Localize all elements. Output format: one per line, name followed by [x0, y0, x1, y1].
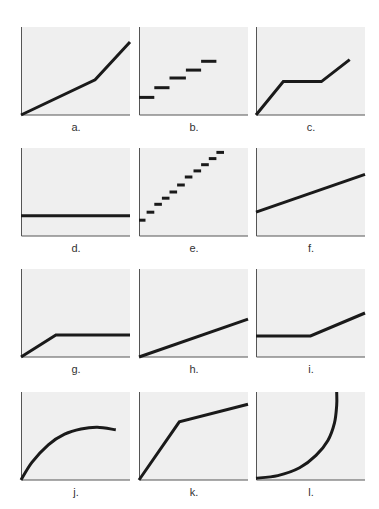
panel-label: b.	[139, 121, 249, 133]
plot-area	[139, 269, 248, 357]
panel-label: c.	[256, 121, 366, 133]
graph-h	[139, 269, 249, 359]
graph-d	[21, 148, 131, 238]
graph-panel-b: b.	[139, 27, 249, 137]
plot-area	[139, 148, 248, 236]
graph-b	[139, 27, 249, 117]
graph-panel-h: h.	[139, 269, 249, 379]
plot-area	[21, 392, 130, 480]
panel-label: i.	[256, 363, 366, 375]
graph-f	[256, 148, 366, 238]
plot-area	[21, 148, 130, 236]
plot-area	[21, 27, 130, 115]
graph-g	[21, 269, 131, 359]
graph-c	[256, 27, 366, 117]
graph-panel-i: i.	[256, 269, 366, 379]
graph-panel-l: l.	[256, 392, 366, 502]
graph-panel-k: k.	[139, 392, 249, 502]
panel-label: e.	[139, 242, 249, 254]
plot-area	[256, 392, 365, 480]
graph-panel-d: d.	[21, 148, 131, 258]
panel-label: d.	[21, 242, 131, 254]
graph-panel-a: a.	[21, 27, 131, 137]
graph-panel-g: g.	[21, 269, 131, 379]
plot-area	[21, 269, 130, 357]
graph-panel-e: e.	[139, 148, 249, 258]
panel-label: h.	[139, 363, 249, 375]
graph-k	[139, 392, 249, 482]
panel-label: g.	[21, 363, 131, 375]
graph-panel-j: j.	[21, 392, 131, 502]
graph-a	[21, 27, 131, 117]
graph-i	[256, 269, 366, 359]
panel-label: j.	[21, 486, 131, 498]
panel-label: f.	[256, 242, 366, 254]
graph-j	[21, 392, 131, 482]
panel-label: a.	[21, 121, 131, 133]
panel-label: l.	[256, 486, 366, 498]
graph-panel-c: c.	[256, 27, 366, 137]
plot-area	[256, 269, 365, 357]
graph-e	[139, 148, 249, 238]
panel-label: k.	[139, 486, 249, 498]
plot-area	[256, 27, 365, 115]
graph-panel-f: f.	[256, 148, 366, 258]
plot-area	[139, 392, 248, 480]
graph-l	[256, 392, 366, 482]
